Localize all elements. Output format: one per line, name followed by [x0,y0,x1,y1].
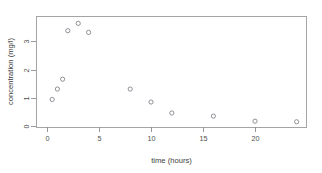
x-axis-title: time (hours) [151,156,192,165]
x-tick-label: 5 [98,134,102,143]
x-tick-label: 0 [46,134,50,143]
y-axis-title: concentration (mg/l) [6,37,15,105]
x-tick-label: 10 [148,134,156,143]
y-tick-label: 2 [22,69,31,73]
figure-background [0,0,322,173]
y-tick-label: 1 [22,97,31,101]
x-tick-label: 20 [252,134,260,143]
scatter-plot-figure: 05101520 0123 time (hours) concentration… [0,0,322,173]
y-tick-label: 3 [22,40,31,44]
y-tick-label: 0 [22,125,31,129]
plot-canvas: 05101520 0123 time (hours) concentration… [0,0,322,173]
x-tick-label: 15 [200,134,208,143]
